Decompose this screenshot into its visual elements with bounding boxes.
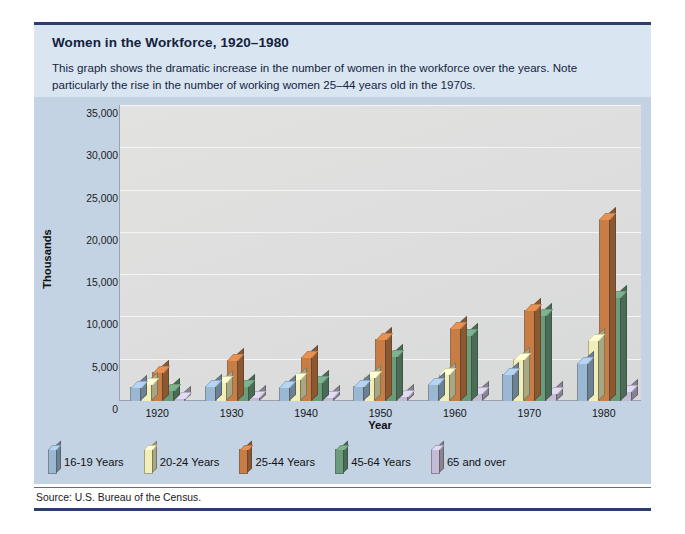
legend-item[interactable]: 45-64 Years [329,449,411,474]
bar-set [502,105,558,401]
bottom-accent-rule [34,508,651,511]
bar-side-face [534,297,541,401]
source-divider [34,487,651,488]
bar-set [205,105,261,401]
y-axis-tick-label: 10,000 [56,319,118,330]
legend-item[interactable]: 20-24 Years [138,449,220,474]
y-axis-tick-label: 5,000 [56,361,118,372]
y-axis-tick-label: 0 [56,404,118,415]
bar[interactable] [130,387,141,401]
x-axis-tick-label: 1960 [418,407,492,419]
legend-label: 25-44 Years [255,456,315,468]
plot-area: 1920193019401950196019701980 [119,105,641,401]
legend-swatch [144,449,153,474]
x-axis-tick-label: 1940 [269,407,343,419]
x-axis-tick-label: 1920 [120,407,194,419]
legend: 16-19 Years20-24 Years25-44 Years45-64 Y… [34,441,651,484]
legend-label: 20-24 Years [160,456,220,468]
plot-wrapper: Thousands 1920193019401950196019701980 0… [119,105,641,401]
legend-swatch [48,449,57,474]
legend-swatch [239,449,248,474]
y-axis-tick-label: 15,000 [56,277,118,288]
bar-group: 1980 [567,105,641,401]
bar-group: 1970 [492,105,566,401]
figure-container: Women in the Workforce, 1920–1980 This g… [0,0,685,534]
figure-header: Women in the Workforce, 1920–1980 This g… [34,25,651,97]
y-axis-tick-label: 35,000 [56,108,118,119]
legend-label: 45-64 Years [351,456,411,468]
legend-swatch [431,449,440,474]
y-axis-tick-label: 25,000 [56,192,118,203]
bar-set [577,105,633,401]
source-note: Source: U.S. Bureau of the Census. [36,492,201,503]
bar-group: 1940 [269,105,343,401]
bar-side-face [620,285,627,401]
x-axis-tick-label: 1980 [567,407,641,419]
bar-side-face [226,369,233,401]
bar-groups: 1920193019401950196019701980 [120,105,641,401]
bar-group: 1960 [418,105,492,401]
x-axis-tick-label: 1930 [194,407,268,419]
bar[interactable] [428,384,439,401]
x-axis-tick-label: 1970 [492,407,566,419]
bar-set [428,105,484,401]
bar[interactable] [502,374,513,401]
figure-title: Women in the Workforce, 1920–1980 [52,35,633,50]
bar-set [279,105,335,401]
y-axis-tick-label: 30,000 [56,150,118,161]
bar-group: 1950 [343,105,417,401]
bar[interactable] [577,363,588,401]
x-axis-title: Year [119,419,641,431]
legend-label: 16-19 Years [64,456,124,468]
bar-group: 1920 [120,105,194,401]
legend-items: 16-19 Years20-24 Years25-44 Years45-64 Y… [42,449,520,474]
x-axis-tick-label: 1950 [343,407,417,419]
bar-side-face [545,302,552,401]
y-axis-tick-label: 20,000 [56,234,118,245]
bar[interactable] [279,387,290,401]
y-axis-title: Thousands [41,229,53,289]
bar-set [353,105,409,401]
chart-band: Thousands 1920193019401950196019701980 0… [34,97,651,441]
bar-group: 1930 [194,105,268,401]
legend-item[interactable]: 65 and over [425,449,506,474]
bar[interactable] [205,386,216,401]
legend-swatch [335,449,344,474]
legend-item[interactable]: 16-19 Years [42,449,124,474]
bar-side-face [609,207,616,401]
legend-item[interactable]: 25-44 Years [233,449,315,474]
bar-set [130,105,186,401]
legend-label: 65 and over [447,456,506,468]
bar[interactable] [353,386,364,401]
figure-description: This graph shows the dramatic increase i… [52,59,630,93]
